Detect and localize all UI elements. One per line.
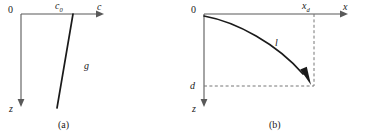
panel-a-surface-speed-subscript: 0	[59, 6, 62, 13]
panel-b: 0 xd x l d z (b)	[185, 0, 369, 139]
figure-container: 0 c0 c g z (a) 0 xd x l d z	[0, 0, 369, 139]
panel-b-y-axis-label: z	[192, 104, 196, 114]
panel-a-origin-label: 0	[8, 5, 13, 15]
panel-b-z-axis-arrowhead	[201, 99, 208, 107]
panel-a-profile-line-g	[57, 14, 73, 108]
panel-b-ray-arrowhead	[300, 67, 311, 85]
panel-a-caption: (a)	[58, 120, 69, 130]
panel-b-x-axis-label: x	[343, 2, 347, 12]
panel-b-ray-path-l	[204, 16, 303, 74]
panel-a-x-axis-label: c	[97, 2, 101, 12]
panel-a-profile-label: g	[84, 61, 89, 71]
panel-a-z-axis-arrowhead	[18, 99, 25, 107]
panel-b-range-label: xd	[302, 1, 310, 14]
panel-b-origin-label: 0	[191, 5, 196, 15]
panel-a-drawing	[0, 0, 185, 139]
panel-a-y-axis-label: z	[9, 104, 13, 114]
panel-b-range-subscript: d	[306, 6, 309, 13]
panel-b-depth-label: d	[190, 81, 195, 91]
panel-b-caption: (b)	[269, 120, 281, 130]
panel-a-surface-speed-label: c0	[55, 1, 63, 14]
panel-a: 0 c0 c g z (a)	[0, 0, 185, 139]
panel-b-ray-label: l	[275, 38, 278, 48]
